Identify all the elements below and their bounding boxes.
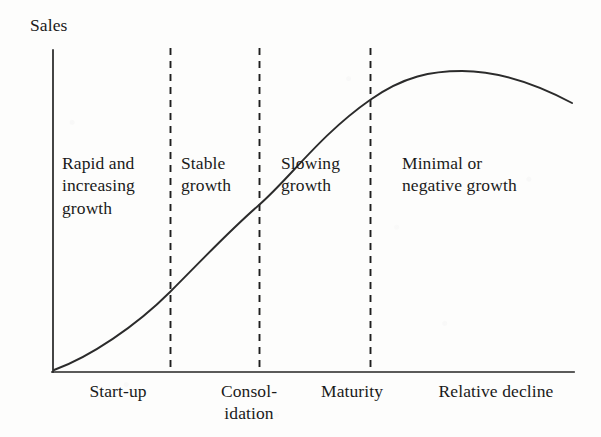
stage-label-start-up: Start-up bbox=[68, 380, 168, 402]
phase-label-rapid-increasing-growth: Rapid and increasing growth bbox=[62, 152, 135, 219]
phase-label-minimal-negative-growth: Minimal or negative growth bbox=[402, 152, 517, 197]
stage-label-consolidation: Consol- idation bbox=[196, 380, 302, 425]
product-life-cycle-figure: Sales Rapid and increasing growth Stable… bbox=[0, 0, 601, 437]
stage-label-maturity: Maturity bbox=[300, 380, 404, 402]
phase-label-stable-growth: Stable growth bbox=[181, 152, 231, 197]
sales-s-curve bbox=[54, 71, 572, 370]
phase-label-slowing-growth: Slowing growth bbox=[281, 152, 340, 197]
stage-label-relative-decline: Relative decline bbox=[408, 380, 584, 402]
y-axis-title: Sales bbox=[30, 14, 67, 36]
